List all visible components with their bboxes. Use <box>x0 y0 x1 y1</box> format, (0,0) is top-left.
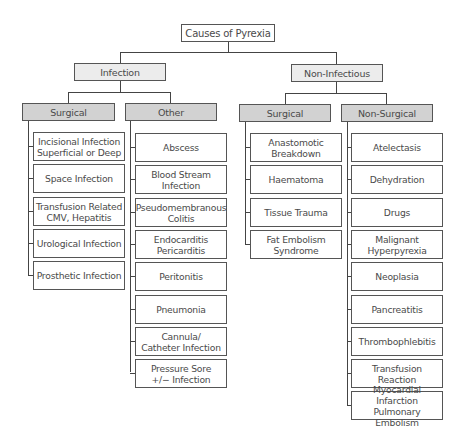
leaf-node: Pressure Sore +/− Infection <box>135 359 227 388</box>
leaf-node: Blood Stream Infection <box>135 165 227 194</box>
connector <box>386 93 387 104</box>
subcategory-infection-other: Other <box>125 103 217 121</box>
leaf-node: Thrombophlebitis <box>351 327 443 356</box>
leaf-node: Incisional Infection Superficial or Deep <box>33 132 125 161</box>
connector <box>68 92 69 103</box>
leaf-node: Tissue Trauma <box>250 198 342 227</box>
leaf-node: Abscess <box>135 133 227 162</box>
leaf-node: Urological Infection <box>33 229 125 258</box>
leaf-node: Transfusion Related CMV, Hepatitis <box>33 197 125 226</box>
connector <box>68 92 171 93</box>
subcategory-noninfectious-surgical: Surgical <box>239 104 331 122</box>
connector <box>336 52 337 64</box>
connector <box>120 52 337 53</box>
leaf-node: Cannula/ Catheter Infection <box>135 327 227 356</box>
category-infection: Infection <box>74 63 166 81</box>
subcategory-infection-surgical: Surgical <box>22 103 115 121</box>
leaf-node: Drugs <box>351 198 443 227</box>
leaf-node: Atelectasis <box>351 133 443 162</box>
leaf-node: Anastomotic Breakdown <box>250 133 342 162</box>
leaf-node: Peritonitis <box>135 262 227 291</box>
connector <box>130 120 131 372</box>
leaf-node: Endocarditis Pericarditis <box>135 230 227 259</box>
connector <box>336 81 337 93</box>
category-non-infectious: Non-Infectious <box>291 64 383 82</box>
leaf-node: Space Infection <box>33 164 125 193</box>
connector <box>245 121 246 245</box>
leaf-node: Malignant Hyperpyrexia <box>351 230 443 259</box>
connector <box>347 121 348 405</box>
subcategory-noninfectious-nonsurgical: Non-Surgical <box>341 104 433 122</box>
leaf-node: Pneumonia <box>135 295 227 324</box>
leaf-node: Pancreatitis <box>351 295 443 324</box>
root-node: Causes of Pyrexia <box>181 24 275 42</box>
connector <box>28 120 29 275</box>
leaf-node: Dehydration <box>351 165 443 194</box>
connector <box>170 92 171 103</box>
leaf-node: Myocardial Infarction Pulmonary Embolism <box>351 391 443 420</box>
leaf-node: Haematoma <box>250 165 342 194</box>
leaf-node: Prosthetic Infection <box>33 261 125 290</box>
leaf-node: Fat Embolism Syndrome <box>250 230 342 259</box>
leaf-node: Pseudomembranous Colitis <box>135 198 227 227</box>
connector <box>285 93 387 94</box>
connector <box>285 93 286 104</box>
leaf-node: Neoplasia <box>351 262 443 291</box>
